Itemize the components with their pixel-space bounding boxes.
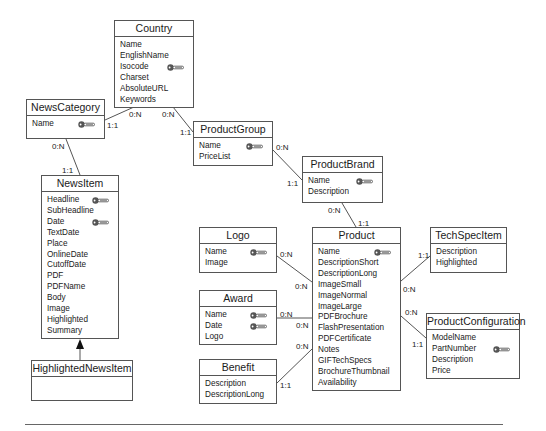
entity-title: HighlightedNewsItem: [32, 361, 132, 377]
entity-productgroup[interactable]: ProductGroupNamePriceList: [193, 121, 273, 166]
entity-country[interactable]: CountryNameEnglishNameIsocodeCharsetAbso…: [114, 20, 194, 108]
attribute-row: ImageSmall: [318, 280, 400, 291]
attribute-name: ImageLarge: [318, 302, 362, 311]
primary-key-icon: [167, 64, 184, 71]
primary-key-icon: [92, 219, 109, 226]
attribute-row: CutoffDate: [47, 260, 118, 271]
cardinality-label: 0:N: [52, 142, 64, 151]
attribute-list: ModelNamePartNumberDescriptionPrice: [427, 330, 519, 377]
attribute-name: Highlighted: [47, 315, 88, 324]
cardinality-label: 1:1: [107, 121, 118, 130]
attribute-row: Description: [308, 187, 382, 198]
attribute-name: Charset: [120, 73, 149, 82]
attribute-row: Keywords: [120, 95, 193, 106]
entity-newsitem[interactable]: NewsItemHeadlineSubHeadlineDateTextDateP…: [41, 175, 119, 339]
attribute-row: Isocode: [120, 62, 193, 73]
attribute-row: DescriptionLong: [318, 269, 400, 280]
entity-benefit[interactable]: BenefitDescriptionDescriptionLong: [199, 359, 277, 404]
attribute-name: ImageNormal: [318, 291, 367, 300]
attribute-name: Image: [47, 304, 70, 313]
attribute-name: EnglishName: [120, 51, 169, 60]
attribute-row: Name: [199, 141, 272, 152]
attribute-name: BrochureThumbnail: [318, 367, 389, 376]
attribute-name: Logo: [205, 332, 223, 341]
inheritance-arrow-icon: [76, 339, 84, 349]
primary-key-icon: [250, 323, 267, 330]
attribute-name: Name: [308, 176, 330, 185]
entity-newscategory[interactable]: NewsCategoryName: [26, 99, 105, 139]
entity-title: ProductBrand: [303, 157, 382, 173]
attribute-name: Image: [205, 258, 228, 267]
attribute-row: BrochureThumbnail: [318, 367, 400, 378]
cardinality-label: 0:N: [276, 143, 288, 152]
entity-techspecitem[interactable]: TechSpecItemDescriptionHighlighted: [430, 227, 507, 273]
entity-title: ProductConfiguration: [427, 314, 519, 330]
relationship-line-benefit-product: [277, 349, 312, 383]
attribute-row: Date: [47, 217, 118, 228]
attribute-row: EnglishName: [120, 51, 193, 62]
attribute-row: Name: [120, 40, 193, 51]
cardinality-label: 0:N: [405, 308, 417, 317]
attribute-row: AbsoluteURL: [120, 84, 193, 95]
attribute-row: Charset: [120, 73, 193, 84]
attribute-row: Place: [47, 239, 118, 250]
cardinality-label: 1:1: [412, 340, 423, 349]
attribute-name: DescriptionLong: [318, 269, 377, 278]
relationship-line-productbrand-product: [342, 203, 356, 227]
cardinality-label: 1:1: [358, 219, 369, 228]
cardinality-label: 0:N: [129, 110, 141, 119]
attribute-list: Name: [27, 116, 104, 130]
attribute-name: Availability: [318, 378, 357, 387]
cardinality-label: 1:1: [280, 381, 291, 390]
entity-productconfiguration[interactable]: ProductConfigurationModelNamePartNumberD…: [426, 313, 520, 379]
entity-product[interactable]: ProductNameDescriptionShortDescriptionLo…: [312, 227, 401, 391]
cardinality-label: 0:N: [162, 110, 174, 119]
entity-title: Award: [200, 291, 276, 307]
entity-title: NewsCategory: [27, 100, 104, 116]
entity-productbrand[interactable]: ProductBrandNameDescription: [302, 156, 383, 203]
attribute-row: OnlineDate: [47, 250, 118, 261]
primary-key-icon: [356, 178, 373, 185]
attribute-name: Description: [205, 379, 246, 388]
attribute-name: Name: [205, 247, 227, 256]
entity-logo[interactable]: LogoNameImage: [199, 227, 277, 273]
attribute-name: Name: [32, 119, 54, 128]
cardinality-label: 0:N: [280, 250, 292, 259]
relationship-line-logo-product: [277, 256, 312, 282]
attribute-row: Notes: [318, 345, 400, 356]
attribute-list: NameDescriptionShortDescriptionLongImage…: [313, 244, 400, 389]
attribute-row: ImageNormal: [318, 291, 400, 302]
entity-award[interactable]: AwardNameDateLogo: [199, 290, 277, 345]
attribute-row: SubHeadline: [47, 206, 118, 217]
attribute-list: NamePriceList: [194, 138, 272, 163]
entity-highlightednewsitem[interactable]: HighlightedNewsItem: [31, 360, 133, 401]
attribute-name: Name: [318, 247, 340, 256]
attribute-name: Headline: [47, 195, 79, 204]
attribute-name: Keywords: [120, 95, 156, 104]
attribute-row: Summary: [47, 326, 118, 337]
attribute-list: DescriptionDescriptionLong: [200, 376, 276, 401]
attribute-row: Availability: [318, 378, 400, 389]
attribute-name: PartNumber: [432, 344, 476, 353]
attribute-row: GIFTechSpecs: [318, 356, 400, 367]
entity-title: Benefit: [200, 360, 276, 376]
primary-key-icon: [246, 143, 263, 150]
attribute-row: TextDate: [47, 228, 118, 239]
entity-title: Country: [115, 21, 193, 37]
attribute-row: Headline: [47, 195, 118, 206]
attribute-name: Date: [205, 321, 222, 330]
primary-key-icon: [78, 121, 95, 128]
attribute-row: DescriptionLong: [205, 390, 276, 401]
primary-key-icon: [92, 197, 109, 204]
attribute-name: Name: [120, 40, 142, 49]
attribute-name: Description: [308, 187, 349, 196]
attribute-list: DescriptionHighlighted: [431, 244, 506, 269]
attribute-row: ImageLarge: [318, 302, 400, 313]
primary-key-icon: [250, 312, 267, 319]
entity-title: TechSpecItem: [431, 228, 506, 244]
attribute-row: PDFBrochure: [318, 312, 400, 323]
attribute-row: Name: [308, 176, 382, 187]
attribute-row: Name: [205, 247, 276, 258]
attribute-name: OnlineDate: [47, 250, 88, 259]
attribute-row: ModelName: [432, 333, 519, 344]
